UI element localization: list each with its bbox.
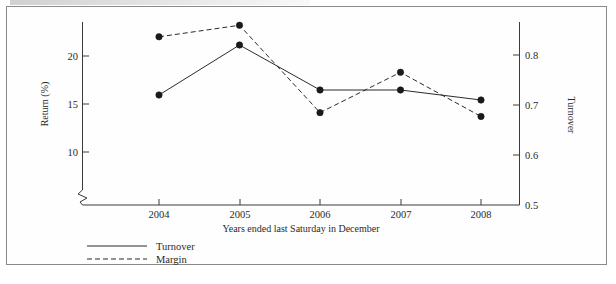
left-axis: 20 15 10 Return (%): [39, 22, 89, 205]
data-point: [236, 22, 242, 28]
x-axis: 2004 2005 2006 2007 2008 Years ended las…: [83, 199, 520, 234]
chart-canvas: 20 15 10 Return (%) 0.8 0.7 0.6 0.5 Turn…: [0, 0, 616, 284]
left-tick-label-20: 20: [68, 51, 79, 62]
series-margin: [156, 22, 484, 120]
right-tick-label-05: 0.5: [525, 200, 538, 211]
right-tick-label-08: 0.8: [525, 50, 538, 61]
data-point: [478, 113, 484, 119]
left-axis-title: Return (%): [39, 82, 51, 127]
data-point: [317, 109, 323, 115]
data-point: [397, 87, 403, 93]
right-axis: 0.8 0.7 0.6 0.5 Turnover: [513, 22, 577, 211]
series-turnover: [156, 42, 484, 103]
x-tick-label-2006: 2006: [310, 209, 331, 220]
legend-label-turnover: Turnover: [156, 241, 195, 252]
data-point: [317, 87, 323, 93]
data-point: [236, 42, 242, 48]
left-tick-label-10: 10: [68, 147, 79, 158]
data-point: [156, 34, 162, 40]
right-tick-label-07: 0.7: [525, 100, 538, 111]
margin-markers: [156, 22, 484, 120]
chart-legend: Turnover Margin: [87, 241, 195, 265]
chart-figure: 20 15 10 Return (%) 0.8 0.7 0.6 0.5 Turn…: [0, 0, 616, 284]
left-tick-label-15: 15: [68, 99, 79, 110]
x-tick-label-2005: 2005: [230, 209, 251, 220]
x-ticks: [159, 199, 481, 205]
legend-label-margin: Margin: [156, 254, 187, 265]
data-point: [478, 97, 484, 103]
margin-line: [159, 25, 481, 116]
x-tick-label-2004: 2004: [149, 209, 171, 220]
x-axis-title: Years ended last Saturday in December: [223, 223, 381, 234]
right-tick-label-06: 0.6: [525, 150, 538, 161]
data-point: [156, 92, 162, 98]
right-axis-title: Turnover: [566, 97, 577, 135]
x-tick-label-2007: 2007: [391, 209, 412, 220]
data-point: [397, 69, 403, 75]
x-tick-label-2008: 2008: [471, 209, 492, 220]
